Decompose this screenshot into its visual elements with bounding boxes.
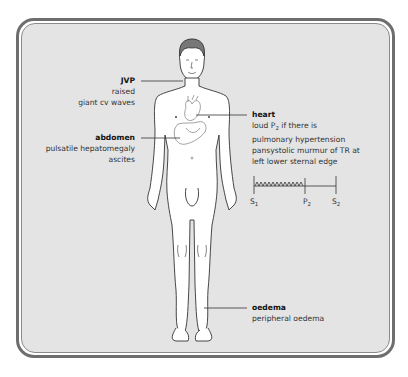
- oedema-label: oedema peripheral oedema: [252, 302, 324, 324]
- heart-line: left lower sternal edge: [252, 157, 337, 166]
- heart-line: loud P: [252, 121, 275, 130]
- oedema-line: peripheral oedema: [252, 314, 324, 323]
- jvp-heading: JVP: [121, 76, 135, 85]
- phonocardiogram: [254, 176, 336, 194]
- heart-line: pansystolic murmur of TR at: [252, 146, 360, 155]
- murmur-wave: [255, 182, 303, 186]
- abdomen-line: ascites: [108, 155, 135, 164]
- subscript: 2: [337, 201, 341, 207]
- human-figure: [0, 0, 408, 377]
- subscript: 2: [308, 201, 312, 207]
- jvp-line: raised: [112, 87, 135, 96]
- p2-label: P2: [303, 196, 311, 210]
- jvp-line: giant cv waves: [78, 98, 135, 107]
- jvp-label: JVP raised giant cv waves: [78, 75, 135, 108]
- nipple-left: [175, 116, 177, 118]
- heart-line: pulmonary hypertension: [252, 135, 345, 144]
- heart-heading: heart: [252, 110, 275, 119]
- abdomen-line: pulsatile hepatomegaly: [46, 144, 135, 153]
- s2-label: S2: [332, 196, 340, 210]
- feet-outline: [172, 328, 212, 341]
- subscript: 1: [255, 201, 259, 207]
- heart-line: if there is: [279, 121, 317, 130]
- abdomen-heading: abdomen: [95, 133, 135, 142]
- oedema-heading: oedema: [252, 303, 286, 312]
- s1-label: S1: [250, 196, 258, 210]
- heart-label: heart loud P2 if there is pulmonary hype…: [252, 109, 360, 167]
- torso-outline: [148, 78, 237, 332]
- nipple-right: [208, 116, 210, 118]
- abdomen-label: abdomen pulsatile hepatomegaly ascites: [46, 132, 135, 165]
